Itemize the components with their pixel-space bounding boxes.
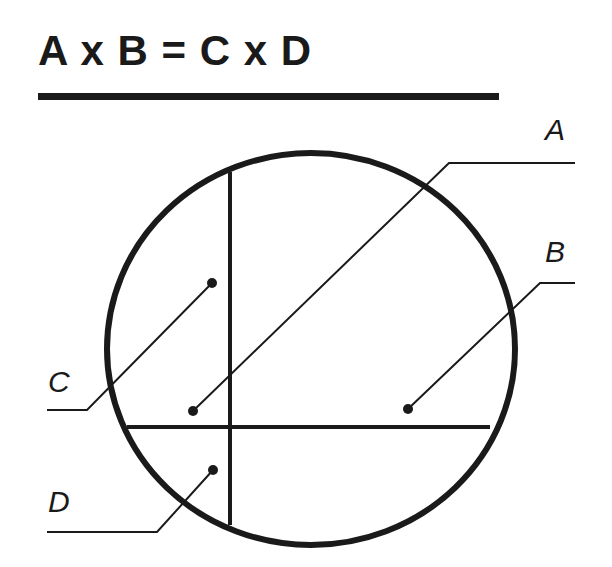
label-b: B bbox=[545, 235, 565, 268]
dot-b bbox=[403, 404, 413, 414]
label-a: A bbox=[543, 113, 565, 146]
leader-a bbox=[188, 163, 575, 416]
dot-d bbox=[208, 465, 218, 475]
label-c: C bbox=[48, 365, 70, 398]
leader-b bbox=[403, 283, 575, 414]
label-d: D bbox=[48, 485, 70, 518]
leader-c bbox=[47, 278, 217, 410]
circle bbox=[107, 153, 515, 545]
dot-c bbox=[207, 278, 217, 288]
leader-d bbox=[47, 465, 218, 532]
intersecting-chords-diagram: A B C D bbox=[0, 0, 612, 567]
dot-a bbox=[188, 406, 198, 416]
